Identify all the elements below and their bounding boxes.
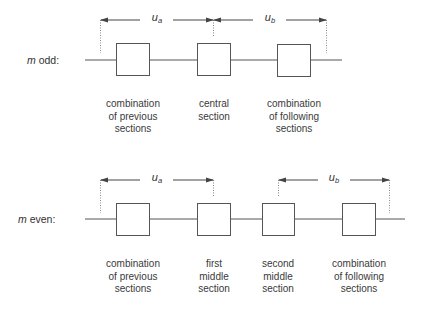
even-box-previous (117, 204, 150, 236)
odd-caption-central: central section (198, 98, 230, 123)
row-label-even-text: even: (27, 213, 56, 225)
row-label-odd-var: m (27, 54, 36, 66)
even-ub-label: ub (329, 171, 339, 185)
row-label-odd: m odd: (27, 54, 59, 66)
even-row-graphics (85, 180, 405, 236)
even-caption-following: combination of following sections (332, 258, 386, 296)
row-label-even-var: m (18, 213, 27, 225)
even-caption-second-middle: second middle section (262, 258, 294, 296)
odd-caption-previous: combination of previous sections (106, 98, 160, 136)
even-caption-previous: combination of previous sections (106, 258, 160, 296)
odd-box-following (278, 45, 311, 77)
odd-ub-label: ub (265, 11, 275, 25)
even-ua-subscript: a (158, 176, 162, 185)
even-caption-first-middle: first middle section (198, 258, 230, 296)
odd-ua-label: ua (152, 11, 162, 25)
odd-ub-subscript: b (271, 16, 275, 25)
even-ua-label: ua (152, 171, 162, 185)
odd-box-central (198, 44, 231, 76)
odd-ua-subscript: a (158, 16, 162, 25)
even-box-first-middle (198, 204, 231, 236)
even-box-following (343, 204, 376, 236)
row-label-even: m even: (18, 213, 55, 225)
odd-caption-following: combination of following sections (267, 98, 321, 136)
even-ub-subscript: b (335, 176, 339, 185)
odd-box-previous (117, 44, 150, 76)
odd-row-graphics (85, 20, 342, 77)
even-box-second-middle (263, 204, 295, 236)
row-label-odd-text: odd: (36, 54, 59, 66)
